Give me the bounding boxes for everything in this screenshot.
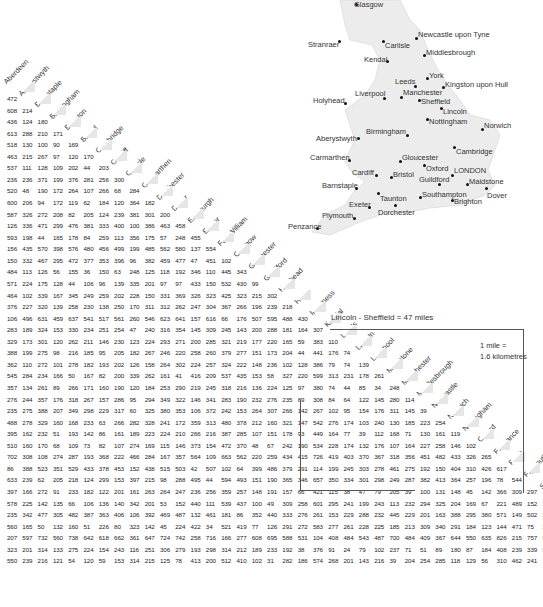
distance-cell: 153 bbox=[113, 474, 128, 485]
distance-cell: 284 bbox=[144, 451, 159, 462]
distance-cell: 293 bbox=[159, 336, 174, 347]
distance-cell: 171 bbox=[52, 128, 67, 139]
distance-cell: 434 bbox=[281, 451, 296, 462]
distance-cell: 220 bbox=[174, 347, 189, 358]
distance-cell: 137 bbox=[190, 243, 205, 254]
table-row: 2831893241533302342512544724031635414530… bbox=[6, 324, 327, 335]
distance-cell: 738 bbox=[67, 532, 82, 543]
distance-cell: 264 bbox=[159, 486, 174, 497]
distance-cell: 588 bbox=[281, 532, 296, 543]
distance-cell: 185 bbox=[82, 347, 97, 358]
distance-cell: 325 bbox=[144, 405, 159, 416]
distance-cell: 300 bbox=[113, 174, 128, 185]
distance-cell: 109 bbox=[52, 162, 67, 173]
distance-cell: 239 bbox=[21, 555, 36, 566]
distance-cell: 318 bbox=[220, 382, 235, 393]
distance-cell: 224 bbox=[266, 382, 281, 393]
distance-cell: 67 bbox=[480, 498, 495, 509]
distance-cell: 44 bbox=[297, 347, 312, 358]
distance-cell: 86 bbox=[98, 428, 113, 439]
table-row: 3291733011202622111462301232242932712002… bbox=[6, 336, 343, 347]
distance-cell: 642 bbox=[82, 532, 97, 543]
distance-cell: 234 bbox=[82, 324, 97, 335]
distance-cell: 210 bbox=[174, 428, 189, 439]
distance-cell: 53 bbox=[159, 498, 174, 509]
distance-cell: 36 bbox=[82, 266, 97, 277]
distance-cell: 459 bbox=[159, 255, 174, 266]
distance-cell: 122 bbox=[98, 486, 113, 497]
distance-cell: 726 bbox=[312, 451, 327, 462]
table-row: 5502392161215412059153314215125784132005… bbox=[6, 555, 543, 566]
distance-cell: 100 bbox=[251, 498, 266, 509]
distance-cell: 583 bbox=[312, 521, 327, 532]
distance-cell: 100 bbox=[128, 220, 143, 231]
distance-cell: 98 bbox=[159, 474, 174, 485]
distance-cell: 408 bbox=[327, 532, 342, 543]
distance-cell: 341 bbox=[205, 394, 220, 405]
distance-cell: 445 bbox=[388, 509, 403, 520]
distance-cell: 118 bbox=[450, 555, 465, 566]
distance-cell: 121 bbox=[52, 555, 67, 566]
distance-cell: 166 bbox=[220, 532, 235, 543]
mileage-chart: AberdeenAberystwythBarnstapleBirminghamB… bbox=[0, 0, 543, 607]
distance-cell: 239 bbox=[113, 209, 128, 220]
distance-cell: 267 bbox=[312, 405, 327, 416]
distance-cell: 359 bbox=[190, 417, 205, 428]
table-row: 6002069417211962184120364182 bbox=[6, 197, 159, 208]
distance-cell: 58 bbox=[266, 370, 281, 381]
example-horizontal-line bbox=[300, 490, 415, 491]
distance-cell: 461 bbox=[205, 509, 220, 520]
distance-cell: 182 bbox=[144, 197, 159, 208]
distance-cell: 325 bbox=[434, 498, 449, 509]
distance-cell: 364 bbox=[128, 197, 143, 208]
distance-cell: 204 bbox=[404, 555, 419, 566]
distance-cell: 449 bbox=[312, 428, 327, 439]
distance-cell: 261 bbox=[343, 521, 358, 532]
distance-cell: 115 bbox=[159, 440, 174, 451]
distance-cell: 599 bbox=[312, 370, 327, 381]
distance-cell: 107 bbox=[82, 185, 97, 196]
distance-cell: 204 bbox=[450, 498, 465, 509]
distance-cell: 608 bbox=[251, 532, 266, 543]
diagonal-marker bbox=[205, 221, 219, 231]
distance-cell: 267 bbox=[37, 151, 52, 162]
distance-cell: 480 bbox=[82, 243, 97, 254]
distance-cell: 507 bbox=[205, 463, 220, 474]
distance-cell: 562 bbox=[235, 451, 250, 462]
distance-cell: 616 bbox=[205, 313, 220, 324]
distance-cell: 158 bbox=[144, 359, 159, 370]
distance-cell: 298 bbox=[82, 405, 97, 416]
distance-cell: 199 bbox=[128, 243, 143, 254]
distance-cell: 241 bbox=[526, 555, 541, 566]
distance-cell: 438 bbox=[144, 463, 159, 474]
distance-cell: 80 bbox=[113, 521, 128, 532]
distance-cell: 165 bbox=[21, 521, 36, 532]
distance-cell: 199 bbox=[52, 174, 67, 185]
distance-cell: 176 bbox=[52, 394, 67, 405]
distance-cell: 78 bbox=[174, 555, 189, 566]
distance-cell: 422 bbox=[190, 521, 205, 532]
distance-cell: 96 bbox=[128, 255, 143, 266]
distance-cell: 236 bbox=[190, 486, 205, 497]
distance-cell: 254 bbox=[419, 555, 434, 566]
distance-cell: 228 bbox=[128, 290, 143, 301]
distance-cell: 258 bbox=[67, 301, 82, 312]
distance-cell: 387 bbox=[82, 509, 97, 520]
distance-cell: 191 bbox=[266, 486, 281, 497]
distance-cell: 126 bbox=[6, 220, 21, 231]
distance-cell: 132 bbox=[52, 521, 67, 532]
table-row: 1503324672954723773533969638245947747451… bbox=[6, 255, 235, 266]
distance-cell: 202 bbox=[113, 290, 128, 301]
example-vertical-line bbox=[300, 400, 301, 490]
distance-cell: 216 bbox=[205, 428, 220, 439]
distance-cell: 116 bbox=[128, 544, 143, 555]
distance-cell: 601 bbox=[312, 498, 327, 509]
distance-cell: 279 bbox=[174, 544, 189, 555]
distance-cell: 204 bbox=[281, 347, 296, 358]
distance-cell: 267 bbox=[82, 394, 97, 405]
distance-cell: 160 bbox=[52, 417, 67, 428]
distance-cell: 323 bbox=[205, 290, 220, 301]
distance-cell: 263 bbox=[144, 486, 159, 497]
distance-cell: 102 bbox=[21, 290, 36, 301]
distance-cell: 388 bbox=[450, 509, 465, 520]
